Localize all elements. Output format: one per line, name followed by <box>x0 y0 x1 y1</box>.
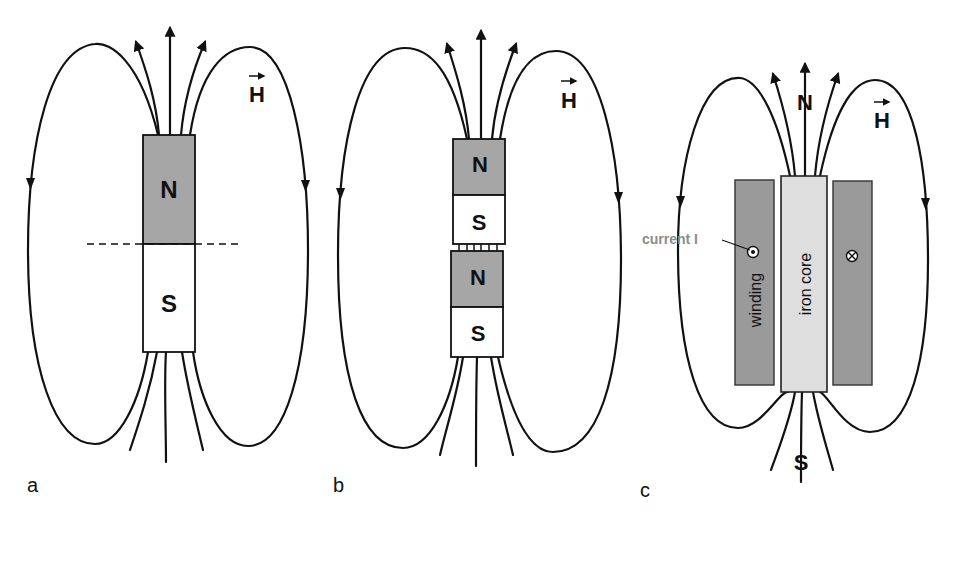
field-h-label: H <box>874 108 890 133</box>
field-line-bottom <box>476 357 477 466</box>
arrow-down-icon <box>614 192 623 204</box>
arrow-down-icon <box>921 198 930 210</box>
north-label: N <box>160 176 177 203</box>
south-label: S <box>472 210 487 235</box>
field-line-left-loop <box>338 48 467 448</box>
field-h-label: H <box>249 82 265 107</box>
north-label: N <box>470 265 486 290</box>
south-label: S <box>161 290 177 317</box>
field-line-bottom <box>182 352 203 450</box>
field-h-label: H <box>561 88 577 113</box>
arrow-down-icon <box>676 196 685 208</box>
current-in-icon <box>847 251 858 262</box>
field-line-bottom <box>165 352 166 462</box>
panel-label-b: b <box>333 474 344 496</box>
winding-right <box>833 181 872 385</box>
magnet-gap <box>459 244 497 251</box>
panel-label-a: a <box>27 474 39 496</box>
pole-south-label: S <box>794 450 809 475</box>
arrow-down-icon <box>26 178 35 190</box>
winding-label: winding <box>747 273 764 328</box>
magnetic-field-figure: N S H a N S N S <box>0 0 955 588</box>
arrow-down-icon <box>336 188 345 200</box>
current-label: current I <box>642 231 698 247</box>
panel-c: iron core winding current I N S H c <box>640 64 930 501</box>
north-label: N <box>472 152 488 177</box>
panel-a: N S H a <box>26 28 310 496</box>
iron-core-label: iron core <box>797 253 814 315</box>
field-arrow-up <box>136 42 159 135</box>
panel-label-c: c <box>640 479 650 501</box>
field-line-right-loop <box>498 51 621 452</box>
pole-north-label: N <box>797 90 813 115</box>
arrow-down-icon <box>301 180 310 192</box>
panel-b: N S N S H b <box>333 31 623 496</box>
current-out-icon <box>748 247 759 258</box>
field-arrow-up <box>447 44 469 139</box>
south-label: S <box>471 321 486 346</box>
